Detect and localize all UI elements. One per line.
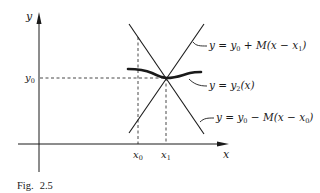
x-axis-arrow-icon — [217, 142, 229, 147]
upper-line-equation: y = y0 + M(x − x1) — [208, 39, 306, 53]
x1-tick-label: x1 — [161, 149, 171, 162]
solution-curve — [128, 69, 201, 78]
figure-caption: Fig.2.5 — [17, 180, 53, 191]
solution-curve-equation: y = y2(x) — [208, 79, 255, 93]
x-axis-label: x — [223, 148, 230, 161]
upper-line-leader — [193, 42, 207, 46]
x0-tick-label: x0 — [133, 149, 143, 162]
lower-line-leader — [200, 118, 214, 122]
y-axis-arrow-icon — [37, 12, 42, 24]
lower-line-equation: y = y0 − M(x − x0) — [215, 111, 313, 125]
figure-diagram: y x y0 x0 x1 y = y0 + M(x − x1) y = y2(x… — [0, 0, 320, 193]
solution-curve-leader — [189, 79, 207, 86]
y-axis-label: y — [25, 10, 33, 23]
y0-tick-label: y0 — [24, 72, 35, 85]
